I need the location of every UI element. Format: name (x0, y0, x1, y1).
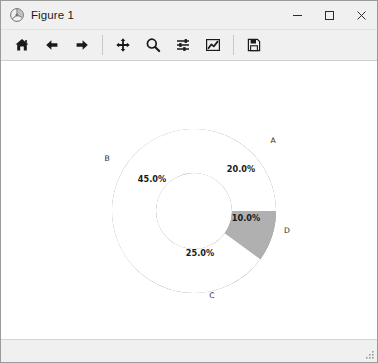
home-button[interactable] (10, 33, 34, 57)
slice-label-d: D (284, 226, 290, 235)
maximize-button[interactable] (313, 1, 345, 29)
zoom-button[interactable] (141, 33, 165, 57)
configure-subplots-button[interactable] (171, 33, 195, 57)
edit-axis-button[interactable] (201, 33, 225, 57)
matplotlib-canvas[interactable]: 20.0%45.0%25.0%10.0% ABCD (1, 62, 377, 339)
minimize-button[interactable] (281, 1, 313, 29)
slice-percent-a: 20.0% (227, 164, 255, 174)
matplotlib-icon (9, 7, 25, 23)
slice-percent-d: 10.0% (232, 213, 260, 223)
status-bar (1, 339, 377, 362)
window-controls (281, 1, 377, 29)
toolbar-separator (233, 35, 234, 55)
forward-button[interactable] (70, 33, 94, 57)
window-title: Figure 1 (31, 9, 74, 21)
slice-label-a: A (270, 136, 276, 145)
navigation-toolbar (1, 30, 377, 61)
slice-percent-c: 25.0% (186, 248, 214, 258)
figure-window: Figure 1 (0, 0, 378, 363)
resize-grip[interactable] (363, 348, 375, 360)
slice-percent-b: 45.0% (138, 174, 166, 184)
pan-button[interactable] (111, 33, 135, 57)
back-button[interactable] (40, 33, 64, 57)
toolbar-separator (102, 35, 103, 55)
slice-label-b: B (104, 154, 109, 163)
donut-chart: 20.0%45.0%25.0%10.0% ABCD (1, 62, 377, 339)
save-button[interactable] (242, 33, 266, 57)
close-button[interactable] (345, 1, 377, 29)
title-bar[interactable]: Figure 1 (1, 1, 377, 30)
slice-label-c: C (209, 291, 214, 300)
chart-background (1, 62, 377, 339)
figure-canvas-area[interactable]: 20.0%45.0%25.0%10.0% ABCD (1, 61, 377, 339)
